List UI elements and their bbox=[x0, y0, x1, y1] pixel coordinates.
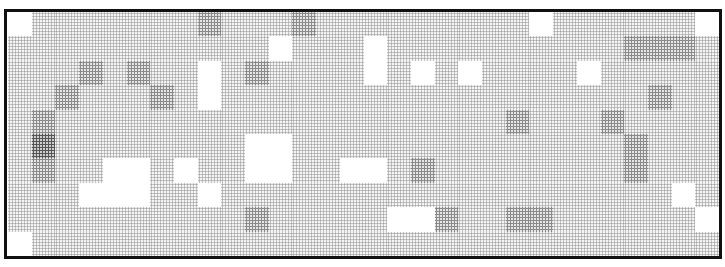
mosaic-cell bbox=[340, 134, 364, 158]
mosaic-cell bbox=[221, 85, 245, 109]
mosaic-cell bbox=[127, 110, 151, 134]
mosaic-cell bbox=[553, 207, 577, 231]
mosaic-cell bbox=[245, 36, 269, 60]
mosaic-cell bbox=[32, 110, 56, 134]
mosaic-cell bbox=[245, 134, 269, 158]
mosaic-cell bbox=[32, 207, 56, 231]
mosaic-cell bbox=[553, 110, 577, 134]
mosaic-cell bbox=[316, 85, 340, 109]
mosaic-cell bbox=[174, 134, 198, 158]
mosaic-cell bbox=[221, 134, 245, 158]
mosaic-cell bbox=[553, 61, 577, 85]
mosaic-cell bbox=[624, 158, 648, 182]
mosaic-cell bbox=[79, 110, 103, 134]
mosaic-cell bbox=[174, 85, 198, 109]
mosaic-cell bbox=[316, 158, 340, 182]
mosaic-cell bbox=[529, 85, 553, 109]
mosaic-cell bbox=[364, 12, 388, 36]
mosaic-cell bbox=[529, 158, 553, 182]
mosaic-cell bbox=[150, 36, 174, 60]
mosaic-cell bbox=[174, 36, 198, 60]
mosaic-cell bbox=[364, 134, 388, 158]
mosaic-cell bbox=[482, 158, 506, 182]
mosaic-cell bbox=[340, 12, 364, 36]
mosaic-cell bbox=[150, 61, 174, 85]
mosaic-cell bbox=[79, 232, 103, 256]
mosaic-cell bbox=[435, 134, 459, 158]
mosaic-cell bbox=[648, 134, 672, 158]
mosaic-cell bbox=[245, 158, 269, 182]
mosaic-cell bbox=[458, 36, 482, 60]
mosaic-cell bbox=[435, 85, 459, 109]
mosaic-cell bbox=[269, 134, 293, 158]
mosaic-cell bbox=[482, 183, 506, 207]
mosaic-cell bbox=[624, 134, 648, 158]
mosaic-cell bbox=[482, 36, 506, 60]
mosaic-cell bbox=[198, 158, 222, 182]
mosaic-cell bbox=[387, 158, 411, 182]
mosaic-cell bbox=[8, 85, 32, 109]
mosaic-cell bbox=[198, 85, 222, 109]
mosaic-cell bbox=[103, 12, 127, 36]
mosaic-cell bbox=[601, 36, 625, 60]
mosaic-cell bbox=[269, 36, 293, 60]
mosaic-cell bbox=[411, 232, 435, 256]
mosaic-cell bbox=[458, 61, 482, 85]
mosaic-cell bbox=[387, 134, 411, 158]
mosaic-cell bbox=[55, 158, 79, 182]
mosaic-cell bbox=[103, 232, 127, 256]
mosaic-cell bbox=[529, 36, 553, 60]
mosaic-cell bbox=[245, 207, 269, 231]
mosaic-cell bbox=[55, 85, 79, 109]
mosaic-cell bbox=[127, 36, 151, 60]
mosaic-cell bbox=[624, 183, 648, 207]
mosaic-cell bbox=[340, 36, 364, 60]
mosaic-cell bbox=[387, 110, 411, 134]
mosaic-cell bbox=[103, 134, 127, 158]
mosaic-cell bbox=[624, 207, 648, 231]
mosaic-cell bbox=[506, 36, 530, 60]
mosaic-cell bbox=[316, 134, 340, 158]
mosaic-cell bbox=[553, 134, 577, 158]
mosaic-cell bbox=[127, 207, 151, 231]
mosaic-cell bbox=[292, 61, 316, 85]
mosaic-cell bbox=[55, 12, 79, 36]
mosaic-cell bbox=[150, 134, 174, 158]
mosaic-cell bbox=[198, 110, 222, 134]
mosaic-cell bbox=[79, 183, 103, 207]
mosaic-cell bbox=[482, 207, 506, 231]
mosaic-cell bbox=[79, 85, 103, 109]
mosaic-cell bbox=[127, 183, 151, 207]
mosaic-cell bbox=[127, 232, 151, 256]
mosaic-cell bbox=[648, 36, 672, 60]
mosaic-cell bbox=[648, 110, 672, 134]
mosaic-cell bbox=[103, 158, 127, 182]
mosaic-cell bbox=[8, 158, 32, 182]
mosaic-cell bbox=[103, 207, 127, 231]
mosaic-cell bbox=[529, 232, 553, 256]
mosaic-cell bbox=[529, 207, 553, 231]
mosaic-cell bbox=[387, 85, 411, 109]
mosaic-cell bbox=[601, 183, 625, 207]
mosaic-cell bbox=[55, 207, 79, 231]
mosaic-cell bbox=[316, 232, 340, 256]
mosaic-cell bbox=[292, 134, 316, 158]
mosaic-cell bbox=[316, 183, 340, 207]
mosaic-cell bbox=[435, 110, 459, 134]
mosaic-cell bbox=[103, 110, 127, 134]
mosaic-cell bbox=[221, 183, 245, 207]
mosaic-cell bbox=[672, 61, 696, 85]
mosaic-cell bbox=[364, 158, 388, 182]
mosaic-cell bbox=[221, 36, 245, 60]
mosaic-cell bbox=[245, 183, 269, 207]
mosaic-cell bbox=[577, 61, 601, 85]
mosaic-cell bbox=[553, 158, 577, 182]
mosaic-cell bbox=[577, 110, 601, 134]
mosaic-cell bbox=[103, 36, 127, 60]
mosaic-cell bbox=[672, 183, 696, 207]
mosaic-cell bbox=[482, 110, 506, 134]
mosaic-cell bbox=[174, 207, 198, 231]
mosaic-cell bbox=[648, 85, 672, 109]
mosaic-cell bbox=[79, 36, 103, 60]
mosaic-cell bbox=[411, 183, 435, 207]
